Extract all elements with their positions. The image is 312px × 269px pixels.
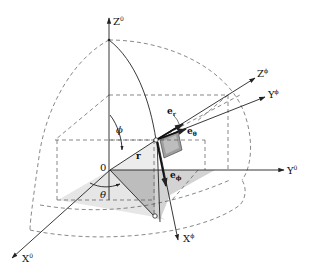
r-label: r	[136, 151, 141, 161]
zphi-label: Zϕ	[257, 67, 268, 79]
e-r-label: er	[167, 106, 177, 117]
y0-label: Y0	[286, 164, 298, 176]
origin-dot	[108, 39, 111, 42]
spherical-coordinates-diagram: Z0 Y0 X0 Zϕ Yϕ Xϕ 0 ϕ θ r er eθ eϕ	[0, 0, 312, 269]
theta-label: θ	[100, 189, 106, 200]
xphi-label: Xϕ	[183, 232, 194, 244]
e-theta-label: eθ	[187, 126, 197, 137]
origin-label: 0	[100, 162, 106, 173]
point-projection	[153, 214, 157, 218]
local-axes	[156, 78, 265, 240]
phi-label: ϕ	[116, 124, 123, 135]
x0-axis	[12, 170, 110, 258]
e-r-leader	[174, 116, 179, 124]
point-p	[154, 138, 158, 142]
yphi-label: Yϕ	[267, 88, 279, 100]
x0-label: X0	[22, 252, 33, 264]
z0-label: Z0	[113, 15, 124, 27]
shaded-planes	[58, 131, 215, 220]
fixed-axes	[12, 18, 284, 258]
